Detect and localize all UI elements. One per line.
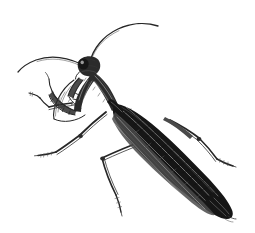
- mantis-drawing-svg: [0, 0, 255, 233]
- mantis-illustration: Praying Mantis vintage steel engraving l…: [0, 0, 255, 233]
- compound-eye: [78, 58, 88, 69]
